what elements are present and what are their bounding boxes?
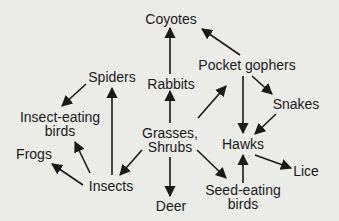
node-seed-eating-birds: Seed-eating birds	[205, 183, 281, 211]
node-insects-label: Insects	[89, 178, 133, 194]
node-grasses-shrubs: Grasses, Shrubs	[142, 126, 198, 154]
node-seed-eating-birds-label-line2: birds	[205, 197, 281, 211]
node-deer-label: Deer	[156, 198, 186, 214]
node-insect-eating-birds-label-line1: Insect-eating	[20, 110, 100, 124]
node-spiders-label: Spiders	[88, 69, 135, 85]
node-coyotes-label: Coyotes	[145, 11, 196, 27]
node-hawks-label: Hawks	[222, 136, 264, 152]
arrow-pocket-gophers-to-coyotes	[202, 29, 240, 55]
node-deer: Deer	[156, 199, 186, 213]
node-rabbits: Rabbits	[147, 77, 194, 91]
node-frogs: Frogs	[16, 147, 52, 161]
node-lice-label: Lice	[293, 163, 319, 179]
arrow-grasses-to-seed-eating-birds	[197, 150, 226, 178]
arrow-insects-to-insect-eating-birds	[75, 142, 90, 173]
node-spiders: Spiders	[88, 70, 135, 84]
node-rabbits-label: Rabbits	[147, 76, 194, 92]
arrow-hawks-to-lice	[255, 155, 291, 168]
arrow-pocket-gophers-to-snakes	[252, 76, 272, 94]
node-pocket-gophers: Pocket gophers	[198, 58, 295, 72]
node-hawks: Hawks	[222, 137, 264, 151]
node-frogs-label: Frogs	[16, 146, 52, 162]
node-snakes-label: Snakes	[273, 96, 320, 112]
arrow-spiders-to-insect-eating-birds	[62, 84, 86, 106]
node-snakes: Snakes	[273, 97, 320, 111]
food-web-diagram: Coyotes Pocket gophers Spiders Rabbits S…	[0, 0, 339, 221]
arrow-snakes-to-hawks	[255, 114, 276, 134]
arrow-grasses-to-insects	[120, 150, 142, 175]
node-grasses-shrubs-label-line1: Grasses,	[142, 126, 198, 140]
node-seed-eating-birds-label-line1: Seed-eating	[205, 183, 281, 197]
node-coyotes: Coyotes	[145, 12, 196, 26]
arrow-insects-to-frogs	[52, 164, 83, 185]
node-grasses-shrubs-label-line2: Shrubs	[142, 140, 198, 154]
node-insect-eating-birds: Insect-eating birds	[20, 110, 100, 138]
node-insect-eating-birds-label-line2: birds	[20, 124, 100, 138]
node-lice: Lice	[293, 164, 319, 178]
arrow-grasses-to-pocket-gophers	[198, 86, 226, 118]
node-pocket-gophers-label: Pocket gophers	[198, 57, 295, 73]
node-insects: Insects	[89, 179, 133, 193]
